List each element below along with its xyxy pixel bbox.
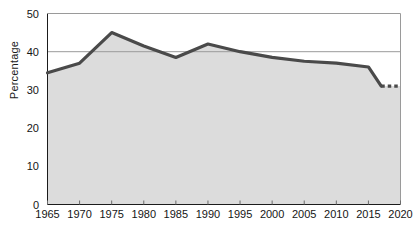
chart-container: Percentage 01020304050 19651970197519801… (0, 0, 417, 236)
series-area-fill (48, 33, 401, 205)
area-fill-group (48, 33, 401, 205)
chart-plot-area (0, 0, 417, 236)
